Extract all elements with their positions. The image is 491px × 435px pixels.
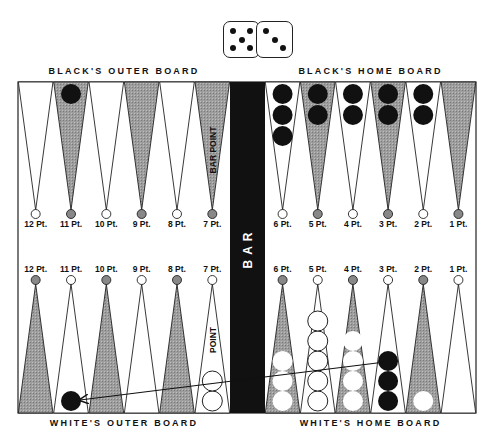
point-tip-marker bbox=[172, 276, 181, 285]
point-label: 9 Pt. bbox=[133, 264, 151, 274]
point-tip-marker bbox=[172, 210, 181, 219]
point-tip-marker bbox=[454, 276, 463, 285]
black-checker[interactable] bbox=[273, 126, 293, 146]
point-tip-marker bbox=[67, 210, 76, 219]
white-checker[interactable] bbox=[308, 371, 328, 391]
point-tip-marker bbox=[313, 210, 322, 219]
point-label: 1 Pt. bbox=[449, 264, 467, 274]
bar-point-annotation: BAR POINT bbox=[208, 126, 218, 174]
black-checker[interactable] bbox=[378, 371, 398, 391]
black-checker[interactable] bbox=[378, 84, 398, 104]
point-label: 5 Pt. bbox=[309, 264, 327, 274]
point-tip-marker bbox=[454, 210, 463, 219]
point-tip-marker bbox=[384, 210, 393, 219]
point-label: 2 Pt. bbox=[414, 264, 432, 274]
point-tip-marker bbox=[278, 210, 287, 219]
svg-text:POINT: POINT bbox=[208, 326, 218, 353]
black-checker[interactable] bbox=[378, 105, 398, 125]
point-label: 7 Pt. bbox=[203, 219, 221, 229]
point-label: 8 Pt. bbox=[168, 264, 186, 274]
point-label: 6 Pt. bbox=[274, 264, 292, 274]
point-tip-marker bbox=[67, 276, 76, 285]
point-label: 8 Pt. bbox=[168, 219, 186, 229]
point-label: 9 Pt. bbox=[133, 219, 151, 229]
white-checker[interactable] bbox=[273, 351, 293, 371]
point-label: 4 Pt. bbox=[344, 219, 362, 229]
point-tip-marker bbox=[208, 210, 217, 219]
white-checker[interactable] bbox=[343, 351, 363, 371]
black-checker[interactable] bbox=[61, 391, 81, 411]
black-checker[interactable] bbox=[343, 105, 363, 125]
point-tip-marker bbox=[102, 276, 111, 285]
point-tip-marker bbox=[31, 210, 40, 219]
point-label: 3 Pt. bbox=[379, 219, 397, 229]
point-label: 1 Pt. bbox=[449, 219, 467, 229]
point-tip-marker bbox=[137, 276, 146, 285]
white-checker[interactable] bbox=[273, 391, 293, 411]
point-tip-marker bbox=[384, 276, 393, 285]
point-tip-marker bbox=[348, 276, 357, 285]
point-tip-marker bbox=[102, 210, 111, 219]
white-checker[interactable] bbox=[308, 331, 328, 351]
point-label: 2 Pt. bbox=[414, 219, 432, 229]
black-checker[interactable] bbox=[343, 84, 363, 104]
white-checker[interactable] bbox=[308, 391, 328, 411]
white-checker[interactable] bbox=[202, 391, 222, 411]
point-tip-marker bbox=[137, 210, 146, 219]
white-checker[interactable] bbox=[413, 391, 433, 411]
white-checker[interactable] bbox=[343, 391, 363, 411]
black-checker[interactable] bbox=[273, 84, 293, 104]
point-tip-marker bbox=[348, 210, 357, 219]
svg-text:BAR: BAR bbox=[241, 228, 255, 269]
point-tip-marker bbox=[419, 276, 428, 285]
black-checker[interactable] bbox=[378, 391, 398, 411]
black-checker[interactable] bbox=[308, 105, 328, 125]
point-label: 10 Pt. bbox=[95, 264, 118, 274]
black-checker[interactable] bbox=[61, 84, 81, 104]
point-label: 12 Pt. bbox=[24, 219, 47, 229]
point-label: 5 Pt. bbox=[309, 219, 327, 229]
white-checker[interactable] bbox=[343, 331, 363, 351]
black-checker[interactable] bbox=[273, 105, 293, 125]
point-label: 12 Pt. bbox=[24, 264, 47, 274]
point-tip-marker bbox=[31, 276, 40, 285]
black-checker[interactable] bbox=[413, 105, 433, 125]
point-tip-marker bbox=[419, 210, 428, 219]
point-tip-marker bbox=[208, 276, 217, 285]
point-label: 4 Pt. bbox=[344, 264, 362, 274]
black-checker[interactable] bbox=[378, 351, 398, 371]
backgammon-board: 12 Pt.11 Pt.10 Pt.9 Pt.8 Pt.7 Pt.6 Pt.5 … bbox=[0, 0, 491, 435]
point-label: 3 Pt. bbox=[379, 264, 397, 274]
white-checker[interactable] bbox=[343, 371, 363, 391]
point-annotation: POINT bbox=[208, 326, 218, 353]
black-checker[interactable] bbox=[413, 84, 433, 104]
point-label: 10 Pt. bbox=[95, 219, 118, 229]
white-checker[interactable] bbox=[308, 311, 328, 331]
point-label: 11 Pt. bbox=[60, 264, 82, 274]
white-checker[interactable] bbox=[308, 351, 328, 371]
black-checker[interactable] bbox=[308, 84, 328, 104]
bar-label: BAR bbox=[241, 228, 255, 269]
point-tip-marker bbox=[278, 276, 287, 285]
white-checker[interactable] bbox=[202, 371, 222, 391]
svg-text:BAR POINT: BAR POINT bbox=[208, 126, 218, 174]
point-label: 6 Pt. bbox=[274, 219, 292, 229]
point-tip-marker bbox=[313, 276, 322, 285]
point-label: 11 Pt. bbox=[60, 219, 82, 229]
point-label: 7 Pt. bbox=[203, 264, 221, 274]
